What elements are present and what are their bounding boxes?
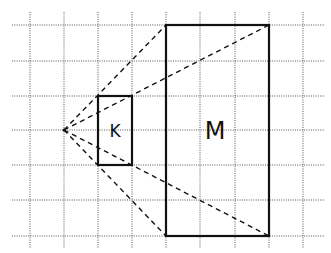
dotted-grid: [12, 12, 325, 248]
projection-vertex: [63, 129, 66, 132]
shape-label: M: [205, 117, 226, 145]
rectangles: KM: [98, 25, 269, 236]
rectangle-k: K: [98, 96, 132, 165]
projection-diagram: KM: [0, 0, 331, 253]
shape-label: K: [109, 121, 121, 141]
dashed-ray: [64, 130, 166, 236]
dashed-ray: [64, 25, 166, 130]
